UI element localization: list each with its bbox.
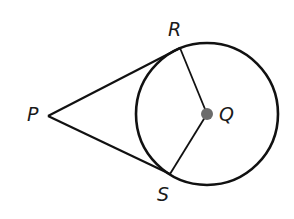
label-q: Q: [219, 103, 234, 125]
tangent-segment-ps: [48, 116, 170, 174]
tangent-segment-pr: [48, 48, 180, 116]
radius-qs: [170, 114, 207, 174]
tangent-circle-diagram: R Q P S: [0, 0, 294, 219]
radius-qr: [180, 48, 207, 114]
label-p: P: [27, 103, 39, 125]
label-s: S: [157, 183, 169, 205]
label-r: R: [168, 18, 181, 40]
center-point-q: [201, 108, 213, 120]
